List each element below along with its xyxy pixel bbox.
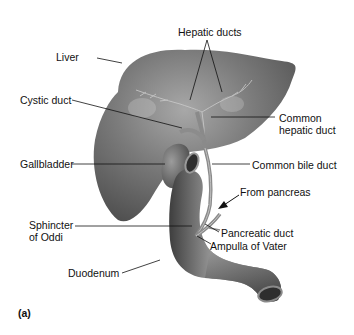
label-common-hepatic-duct-line2: hepatic duct — [279, 124, 336, 136]
label-common-hepatic-duct: Common hepatic duct — [279, 112, 336, 136]
label-common-hepatic-duct-line1: Common — [279, 112, 336, 124]
label-sphincter-line1: Sphincter — [29, 219, 73, 231]
label-pancreatic-duct: Pancreatic duct — [221, 227, 293, 239]
label-common-bile-duct: Common bile duct — [252, 159, 337, 171]
label-ampulla-of-vater: Ampulla of Vater — [210, 240, 287, 252]
label-liver: Liver — [56, 51, 79, 63]
label-gallbladder: Gallbladder — [20, 158, 74, 170]
label-duodenum: Duodenum — [68, 267, 119, 279]
label-from-pancreas: From pancreas — [240, 186, 311, 198]
from-pancreas-arrow-icon — [218, 195, 239, 209]
label-cystic-duct: Cystic duct — [20, 94, 71, 106]
label-sphincter-of-oddi: Sphincter of Oddi — [29, 219, 73, 243]
label-hepatic-ducts: Hepatic ducts — [178, 26, 242, 38]
label-sphincter-line2: of Oddi — [29, 231, 73, 243]
panel-label: (a) — [18, 307, 31, 319]
